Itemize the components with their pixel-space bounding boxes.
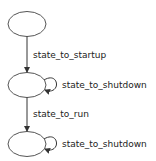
state-node-initial[interactable] [8,12,46,37]
state-node-startup[interactable] [8,73,46,98]
edge-label-state-to-shutdown-2: state_to_shutdown [62,139,147,149]
state-diagram: state_to_startup state_to_shutdown state… [0,0,156,161]
edge-label-state-to-run: state_to_run [33,109,89,119]
edge-label-state-to-shutdown-1: state_to_shutdown [62,80,147,90]
state-node-run[interactable] [8,132,46,157]
edge-label-state-to-startup: state_to_startup [33,50,107,60]
